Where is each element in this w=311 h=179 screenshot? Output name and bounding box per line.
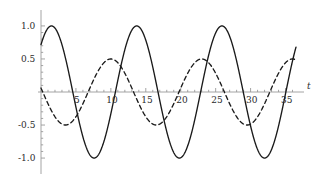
x-tick-label-15: 15: [141, 95, 152, 105]
y-tick-label--1-0: -1.0: [18, 153, 35, 163]
axis-group: [38, 10, 304, 174]
x-tick-label-30: 30: [246, 95, 257, 105]
x-tick-label-25: 25: [211, 95, 222, 105]
x-tick-label-10: 10: [106, 95, 117, 105]
x-axis-name: t: [307, 81, 311, 91]
plot-figure: 51015202530351.00.5-0.5-1.0t: [0, 0, 311, 179]
y-tick-label--0-5: -0.5: [18, 120, 35, 130]
y-tick-label-1-0: 1.0: [21, 21, 35, 31]
plot-canvas: [0, 0, 311, 179]
x-tick-label-20: 20: [176, 95, 187, 105]
x-tick-label-35: 35: [281, 95, 292, 105]
x-tick-label-5: 5: [74, 95, 80, 105]
y-tick-label-0-5: 0.5: [21, 54, 35, 64]
